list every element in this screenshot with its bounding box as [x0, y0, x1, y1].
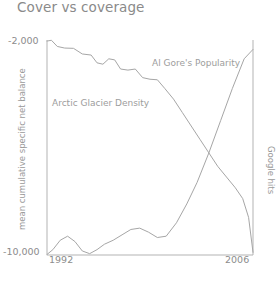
x-tick-end: 2006	[225, 254, 249, 265]
x-tick-start: 1992	[49, 254, 73, 265]
series-line-arctic-glacier-density	[47, 40, 253, 252]
annotation-arctic-glacier-density: Arctic Glacier Density	[52, 98, 149, 108]
y-axis-label-left: mean cumulative specific net balance	[17, 80, 27, 230]
chart-figure: Cover vs coverage -2,000 -10,000 1992 20…	[0, 0, 277, 285]
y-tick-top: -2,000	[8, 35, 39, 46]
series-line-al-gores-popularity	[47, 49, 253, 254]
y-tick-bottom: -10,000	[3, 246, 40, 257]
y-axis-label-right: Google hits	[266, 115, 276, 225]
annotation-al-gores-popularity: Al Gore's Popularity	[152, 58, 240, 68]
plot-area	[0, 0, 277, 285]
